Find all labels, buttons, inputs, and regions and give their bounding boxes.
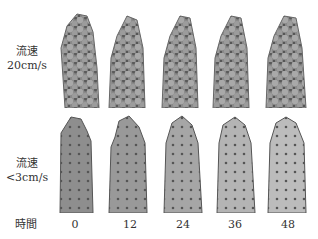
row-label-line1: 流速	[0, 45, 54, 59]
coral-photo-high-flow-t0	[57, 8, 101, 108]
row-label-line1: 流速	[0, 157, 54, 171]
coral-photo-low-flow-t24	[160, 113, 208, 213]
row-label-line2: <3cm/s	[0, 171, 54, 185]
coral-photo-low-flow-t48	[264, 113, 312, 213]
coral-photo-high-flow-t48	[262, 8, 312, 108]
time-tick: 12	[110, 218, 150, 231]
row-label-line2: 20cm/s	[0, 59, 54, 73]
coral-photo-low-flow-t12	[105, 113, 153, 213]
coral-photo-low-flow-t36	[213, 113, 261, 213]
time-axis-label: 時間	[6, 218, 46, 232]
time-tick: 36	[215, 218, 255, 231]
time-tick: 48	[268, 218, 308, 231]
time-tick: 0	[55, 218, 95, 231]
time-tick: 24	[163, 218, 203, 231]
coral-photo-high-flow-t12	[105, 8, 149, 108]
row-label-low-flow: 流速 <3cm/s	[0, 157, 54, 185]
coral-photo-high-flow-t36	[209, 8, 253, 108]
row-label-high-flow: 流速 20cm/s	[0, 45, 54, 73]
coral-photo-low-flow-t0	[57, 113, 101, 213]
coral-photo-high-flow-t24	[158, 8, 202, 108]
